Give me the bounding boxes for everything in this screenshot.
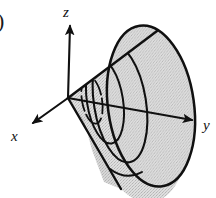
figure-container: ) z y x [0, 0, 216, 198]
x-axis-label: x [10, 128, 18, 144]
caption-paren: ) [0, 8, 4, 33]
z-axis-line [68, 26, 70, 98]
cone-diagram-svg: ) z y x [0, 0, 216, 198]
y-axis-label: y [201, 117, 210, 133]
z-axis-label: z [62, 4, 69, 20]
x-axis-line [33, 98, 68, 123]
